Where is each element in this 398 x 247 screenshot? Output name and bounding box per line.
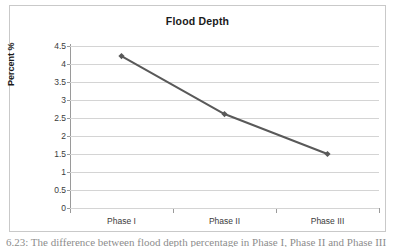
- y-tick-label: 3.5: [26, 77, 66, 87]
- y-tick-label: 1: [26, 167, 66, 177]
- plot-area: [70, 46, 379, 208]
- y-axis-title: Percent %: [6, 42, 16, 86]
- line-series: [70, 46, 379, 208]
- y-axis-tick-labels: 4.543.532.521.510.50: [22, 6, 66, 231]
- gridline: [70, 208, 379, 209]
- y-tick-label: 0.5: [26, 185, 66, 195]
- chart-screenshot: Flood Depth Percent % 4.543.532.521.510.…: [0, 0, 398, 247]
- y-tick-label: 1.5: [26, 149, 66, 159]
- y-tick-label: 4: [26, 59, 66, 69]
- chart-title: Flood Depth: [10, 15, 385, 27]
- figure-caption-strip: 6.23: The difference between flood depth…: [0, 238, 398, 247]
- data-point-marker: [324, 151, 330, 157]
- y-tick-mark: [67, 208, 70, 209]
- y-tick-label: 2.5: [26, 113, 66, 123]
- y-tick-label: 0: [26, 203, 66, 213]
- figure-caption: 6.23: The difference between flood depth…: [6, 238, 386, 247]
- y-tick-label: 4.5: [26, 41, 66, 51]
- y-tick-label: 2: [26, 131, 66, 141]
- y-tick-label: 3: [26, 95, 66, 105]
- x-tick-mark: [379, 208, 380, 213]
- x-tick-label: Phase II: [209, 216, 240, 226]
- x-tick-label: Phase III: [311, 216, 345, 226]
- x-tick-label: Phase I: [107, 216, 136, 226]
- chart-frame: Flood Depth Percent % 4.543.532.521.510.…: [9, 5, 386, 232]
- series-line: [122, 56, 328, 154]
